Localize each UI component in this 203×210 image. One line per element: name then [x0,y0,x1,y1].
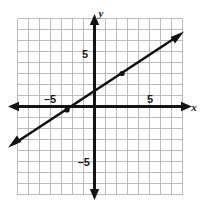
line-point-marker [119,71,124,76]
y-axis-negative-tick-label: –5 [78,156,90,168]
line-point-marker [64,107,69,112]
graph-canvas: –5 5 5 –5 x y [0,0,203,210]
figure-background [0,0,203,210]
y-axis-positive-tick-label: 5 [82,48,88,60]
y-axis-name-label: y [97,7,104,19]
coordinate-plane-figure: –5 5 5 –5 x y [0,0,203,210]
x-axis-negative-tick-label: –5 [44,93,56,105]
x-axis-name-label: x [190,101,197,113]
x-axis-positive-tick-label: 5 [147,93,153,105]
